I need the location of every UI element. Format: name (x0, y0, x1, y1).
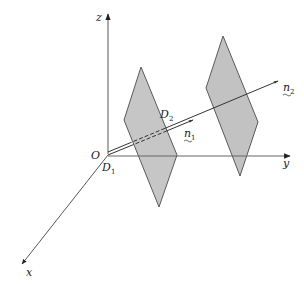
vector-n1-label: n 1 (184, 127, 195, 142)
x-axis (22, 155, 108, 264)
z-axis-label: z (95, 11, 102, 24)
point-d2-label: D 2 (159, 108, 173, 123)
x-axis-label: x (26, 266, 33, 279)
y-axis-label: y (282, 157, 290, 170)
svg-text:D: D (101, 161, 111, 174)
svg-text:D: D (159, 108, 169, 121)
svg-text:2: 2 (169, 115, 173, 123)
point-d1-label: D 1 (101, 161, 115, 176)
plane-1 (124, 67, 177, 207)
svg-text:1: 1 (111, 168, 115, 176)
vector-n2-label: n 2 (283, 81, 294, 96)
diagram-canvas: z y x O D 1 D 2 n 1 n 2 (0, 0, 304, 284)
plane-2 (206, 36, 258, 176)
svg-text:2: 2 (290, 88, 294, 96)
svg-text:1: 1 (191, 134, 195, 142)
diagram-svg: z y x O D 1 D 2 n 1 n 2 (0, 0, 304, 284)
origin-label: O (91, 149, 100, 162)
